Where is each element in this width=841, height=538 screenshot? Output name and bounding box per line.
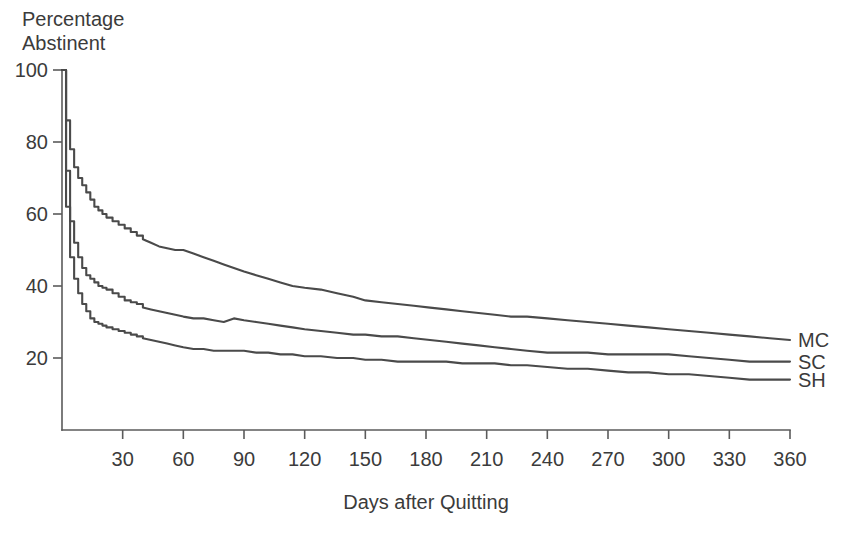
y-tick-label: 80 bbox=[26, 131, 48, 153]
y-tick-label: 20 bbox=[26, 347, 48, 369]
abstinence-survival-chart: Percentage Abstinent 20406080100 3060901… bbox=[0, 0, 841, 538]
x-tick-label: 60 bbox=[172, 448, 194, 470]
series-line-mc bbox=[62, 70, 790, 340]
y-axis-title-line1: Percentage bbox=[22, 8, 124, 30]
series-line-sc bbox=[62, 70, 790, 362]
series-label-sh: SH bbox=[798, 369, 826, 391]
y-tick-label: 100 bbox=[15, 59, 48, 81]
series-labels: MCSCSH bbox=[798, 329, 829, 391]
x-tick-label: 240 bbox=[531, 448, 564, 470]
y-axis-ticks: 20406080100 bbox=[15, 59, 62, 369]
y-tick-label: 40 bbox=[26, 275, 48, 297]
x-tick-label: 330 bbox=[713, 448, 746, 470]
x-tick-label: 120 bbox=[288, 448, 321, 470]
x-tick-label: 30 bbox=[112, 448, 134, 470]
x-tick-label: 210 bbox=[470, 448, 503, 470]
x-tick-label: 360 bbox=[773, 448, 806, 470]
x-axis-title: Days after Quitting bbox=[343, 491, 509, 513]
series-label-mc: MC bbox=[798, 329, 829, 351]
x-axis-ticks: 306090120150180210240270300330360 bbox=[112, 430, 807, 470]
y-tick-label: 60 bbox=[26, 203, 48, 225]
x-tick-label: 90 bbox=[233, 448, 255, 470]
x-tick-label: 270 bbox=[591, 448, 624, 470]
x-tick-label: 180 bbox=[409, 448, 442, 470]
series-line-sh bbox=[62, 70, 790, 380]
y-axis-title-line2: Abstinent bbox=[22, 32, 106, 54]
x-tick-label: 150 bbox=[349, 448, 382, 470]
x-tick-label: 300 bbox=[652, 448, 685, 470]
chart-svg: Percentage Abstinent 20406080100 3060901… bbox=[0, 0, 841, 538]
series-lines bbox=[62, 70, 790, 380]
